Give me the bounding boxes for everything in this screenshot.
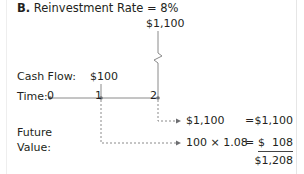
fv-row1-result: $1,100 xyxy=(250,115,293,127)
future-value-label-line2: Value: xyxy=(17,142,51,154)
dashed-arrow-t1 xyxy=(101,100,176,143)
fv-total: $1,208 xyxy=(250,155,293,167)
tick-label-2: 2 xyxy=(150,90,157,102)
figure-title: B. Reinvestment Rate = 8% xyxy=(17,2,179,14)
future-value-label-line1: Future xyxy=(17,127,52,139)
arrowhead-icon xyxy=(176,141,181,146)
cash-flow-amount-t1: $100 xyxy=(90,71,118,83)
arrowhead-icon xyxy=(176,119,181,124)
dashed-arrow-t2 xyxy=(158,100,176,121)
time-label: Time: xyxy=(17,91,48,103)
tick-label-1: 1 xyxy=(95,90,102,102)
fv-row1-expr: $1,100 xyxy=(186,115,225,127)
cash-flow-amount-t2: $1,100 xyxy=(146,18,185,30)
cash-flow-line-t2 xyxy=(154,31,162,98)
cash-flow-label: Cash Flow: xyxy=(17,71,76,83)
tick-label-0: 0 xyxy=(47,90,54,102)
fv-row2-expr: 100 × 1.08 xyxy=(186,137,248,149)
panel-label: B. xyxy=(17,1,30,15)
fv-row2-result: 108 xyxy=(250,137,293,149)
title-text: Reinvestment Rate = 8% xyxy=(34,1,179,15)
